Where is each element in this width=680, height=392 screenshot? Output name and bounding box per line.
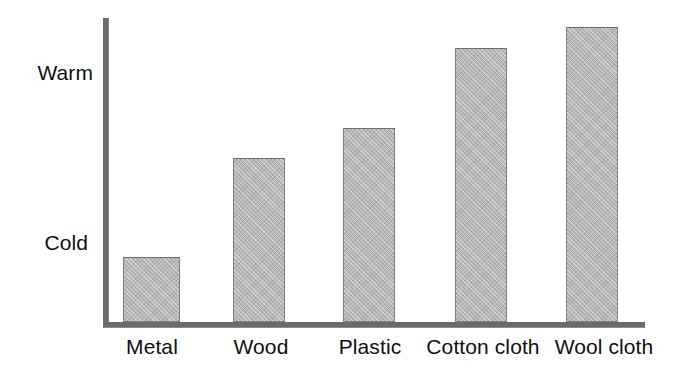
bar-wool-cloth xyxy=(566,27,618,322)
bar-metal xyxy=(123,257,180,322)
plot-area: MetalWoodPlasticCotton clothWool cloth xyxy=(0,0,680,392)
x-axis-label-metal: Metal xyxy=(113,336,191,358)
bar-wood xyxy=(233,158,285,322)
x-axis-label-plastic: Plastic xyxy=(330,336,410,358)
x-axis-label-wool-cloth: Wool cloth xyxy=(545,336,663,358)
x-axis-label-wood: Wood xyxy=(222,336,300,358)
bar-chart-figure: Warm Cold MetalWoodPlasticCotton clothWo… xyxy=(0,0,680,392)
bar-cotton-cloth xyxy=(455,48,507,322)
x-axis-label-cotton-cloth: Cotton cloth xyxy=(421,336,545,358)
bar-plastic xyxy=(343,128,395,322)
